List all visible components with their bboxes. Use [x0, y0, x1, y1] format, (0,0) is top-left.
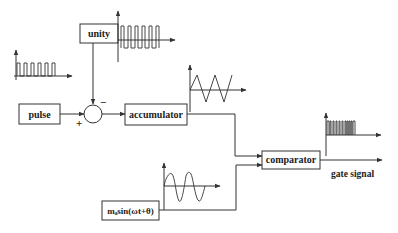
comparator-block: comparator [262, 151, 320, 169]
pulse-train-waveform [14, 50, 72, 80]
square-waveform [118, 11, 175, 62]
accumulator-to-comparator-wire [187, 114, 262, 156]
sine-waveform [164, 163, 220, 210]
sine-source-block: mₐsin(ωt+θ) [102, 201, 159, 220]
comparator-label: comparator [266, 154, 317, 165]
block-diagram: unity − pulse + accumulator comparator g… [0, 0, 398, 233]
pulse-label: pulse [28, 109, 51, 120]
accumulator-label: accumulator [129, 109, 183, 120]
summing-junction [84, 105, 102, 123]
gate-signal-label: gate signal [331, 169, 374, 179]
plus-sign: + [76, 117, 82, 129]
accumulator-block: accumulator [125, 104, 187, 125]
minus-sign: − [100, 96, 106, 108]
sine-to-comparator-wire [159, 165, 262, 210]
unity-label: unity [88, 28, 110, 39]
unity-block: unity [80, 24, 118, 43]
sine-source-label: mₐsin(ωt+θ) [107, 206, 154, 216]
triangle-waveform [190, 65, 246, 112]
pulse-block: pulse [19, 104, 60, 124]
gate-pulse-waveform [326, 113, 381, 156]
